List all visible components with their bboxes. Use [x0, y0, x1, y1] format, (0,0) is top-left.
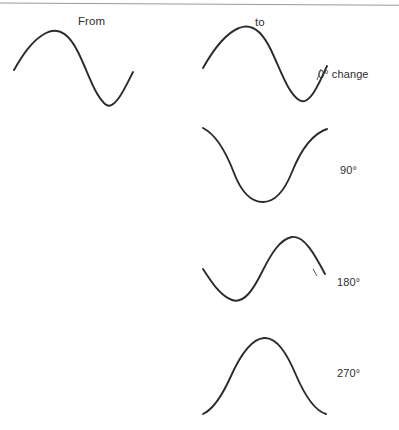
scan-artifact-marks [0, 0, 399, 430]
phase-change-figure: From to 0° change 90° 180° 270° [0, 0, 399, 430]
